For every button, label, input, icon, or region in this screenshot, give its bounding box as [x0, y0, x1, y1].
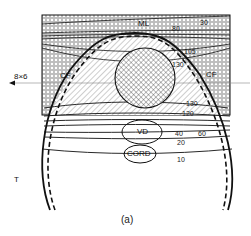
label-cord: CORD — [127, 150, 151, 158]
label-cf-right: CF — [206, 71, 217, 79]
label-side-t: T — [14, 176, 19, 184]
arrow-icon — [9, 81, 15, 86]
label-isodose-120: 120 — [182, 110, 194, 117]
label-field-size: 8×6 — [14, 73, 28, 81]
label-isodose-80: 80 — [172, 25, 180, 32]
label-isodose-130-lower: 130 — [186, 100, 198, 107]
label-isodose-105: 105 — [184, 48, 196, 55]
target-volume — [115, 48, 175, 108]
label-isodose-10: 10 — [177, 156, 185, 163]
label-midline: ML — [138, 20, 149, 28]
label-vd: VD — [137, 128, 148, 136]
isodose-diagram — [0, 0, 251, 236]
label-isodose-130-upper: 130 — [172, 61, 184, 68]
figure-caption: (a) — [121, 214, 133, 225]
label-isodose-20: 20 — [177, 139, 185, 146]
label-cf-left: CF — [60, 72, 71, 80]
label-isodose-60: 60 — [198, 130, 206, 137]
label-isodose-30: 30 — [200, 19, 208, 26]
label-isodose-40: 40 — [175, 130, 183, 137]
